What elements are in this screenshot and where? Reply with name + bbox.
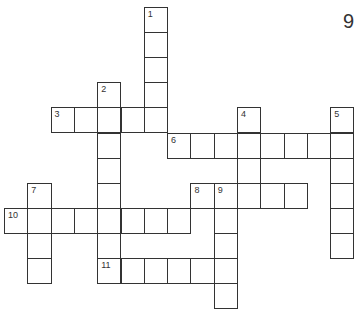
crossword-cell[interactable] [284, 133, 308, 159]
crossword-cell[interactable] [97, 183, 121, 209]
crossword-cell[interactable] [51, 208, 75, 234]
crossword-cell[interactable] [144, 82, 168, 108]
crossword-cell[interactable]: 4 [237, 107, 261, 133]
crossword-cell[interactable] [121, 107, 145, 133]
crossword-cell[interactable] [237, 133, 261, 159]
crossword-cell[interactable] [121, 258, 145, 284]
clue-number: 2 [101, 84, 106, 94]
crossword-cell[interactable] [330, 133, 354, 159]
crossword-cell[interactable] [260, 183, 284, 209]
clue-number: 1 [148, 9, 153, 19]
crossword-cell[interactable] [97, 233, 121, 259]
crossword-cell[interactable] [27, 258, 51, 284]
crossword-cell[interactable]: 8 [190, 183, 214, 209]
crossword-cell[interactable] [144, 57, 168, 83]
crossword-cell[interactable] [260, 133, 284, 159]
crossword-cell[interactable]: 1 [144, 7, 168, 33]
crossword-cell[interactable]: 3 [51, 107, 75, 133]
crossword-cell[interactable]: 11 [97, 258, 121, 284]
crossword-cell[interactable] [144, 32, 168, 58]
crossword-cell[interactable] [27, 233, 51, 259]
crossword-cell[interactable] [144, 208, 168, 234]
crossword-cell[interactable]: 6 [167, 133, 191, 159]
crossword-cell[interactable] [167, 258, 191, 284]
clue-number: 8 [194, 185, 199, 195]
crossword-cell[interactable] [190, 133, 214, 159]
crossword-cell[interactable] [214, 283, 238, 309]
crossword-cell[interactable] [214, 233, 238, 259]
crossword-cell[interactable] [97, 208, 121, 234]
crossword-cell[interactable] [237, 183, 261, 209]
crossword-cell[interactable] [144, 107, 168, 133]
crossword-cell[interactable] [190, 258, 214, 284]
crossword-cell[interactable] [74, 107, 98, 133]
crossword-cell[interactable] [330, 208, 354, 234]
clue-number: 11 [101, 260, 110, 270]
crossword-cell[interactable] [97, 158, 121, 184]
crossword-cell[interactable] [214, 208, 238, 234]
crossword-cell[interactable]: 9 [214, 183, 238, 209]
clue-number: 6 [171, 135, 176, 145]
crossword-cell[interactable] [330, 183, 354, 209]
clue-number: 7 [31, 185, 36, 195]
clue-number: 4 [241, 109, 246, 119]
crossword-cell[interactable] [97, 107, 121, 133]
crossword-cell[interactable] [167, 208, 191, 234]
crossword-cell[interactable] [237, 158, 261, 184]
crossword-cell[interactable] [284, 183, 308, 209]
page-number: 9 [343, 10, 354, 32]
crossword-cell[interactable]: 2 [97, 82, 121, 108]
crossword-cell[interactable] [27, 208, 51, 234]
clue-number: 3 [55, 109, 60, 119]
crossword-cell[interactable] [121, 208, 145, 234]
clue-number: 10 [8, 210, 18, 220]
clue-number: 9 [218, 185, 223, 195]
crossword-cell[interactable] [307, 133, 331, 159]
crossword-cell[interactable] [97, 133, 121, 159]
clue-number: 5 [334, 109, 339, 119]
crossword-cell[interactable] [330, 158, 354, 184]
crossword-cell[interactable]: 5 [330, 107, 354, 133]
crossword-cell[interactable]: 10 [4, 208, 28, 234]
crossword-cell[interactable] [330, 233, 354, 259]
crossword-cell[interactable] [74, 208, 98, 234]
crossword-cell[interactable] [214, 258, 238, 284]
crossword-cell[interactable] [214, 133, 238, 159]
crossword-cell[interactable] [144, 258, 168, 284]
crossword-cell[interactable]: 7 [27, 183, 51, 209]
